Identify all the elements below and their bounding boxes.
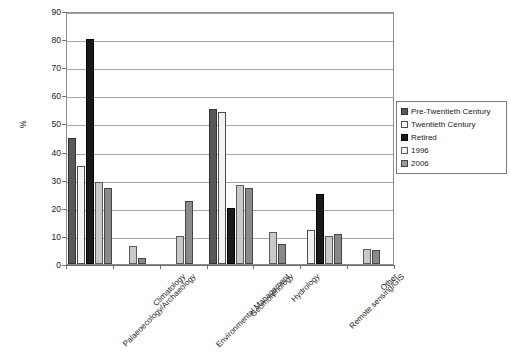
y-axis-tick-label: 90 [52, 7, 61, 17]
bars-layer [67, 13, 393, 264]
bar-group [114, 13, 161, 264]
bar [218, 112, 226, 264]
bar [278, 244, 286, 264]
legend-item-label: Twentieth Century [411, 120, 475, 129]
bar [138, 258, 146, 264]
y-axis-title: % [18, 120, 28, 128]
legend-swatch-icon [401, 108, 408, 115]
legend-item: Retired [401, 132, 503, 143]
bar-group [161, 13, 208, 264]
bar-group [67, 13, 114, 264]
plot-area [66, 12, 394, 265]
bar [372, 250, 380, 264]
bar [227, 208, 235, 264]
bar [86, 39, 94, 264]
bar [363, 249, 371, 264]
bar-group [208, 13, 255, 264]
y-axis-tick-label: 60 [52, 91, 61, 101]
legend-swatch-icon [401, 134, 408, 141]
legend-swatch-icon [401, 147, 408, 154]
y-axis-tick-label: 70 [52, 63, 61, 73]
x-axis-label: Remote sensing/GIS [348, 272, 407, 331]
bar [95, 182, 103, 264]
bar [236, 185, 244, 264]
legend-item: 1996 [401, 145, 503, 156]
x-axis-line [66, 265, 394, 266]
bar [129, 246, 137, 264]
legend-item-label: Retired [411, 133, 437, 142]
y-axis-tick-label: 50 [52, 119, 61, 129]
legend-item-label: 1996 [411, 146, 429, 155]
bar [245, 188, 253, 264]
y-axis-tick-label: 0 [56, 260, 61, 270]
bar [307, 230, 315, 264]
bar [269, 232, 277, 264]
legend-swatch-icon [401, 121, 408, 128]
y-axis-tick-label: 80 [52, 35, 61, 45]
x-axis-label: Palaeoecology/Archaeology [121, 272, 198, 349]
legend-item-label: 2006 [411, 159, 429, 168]
x-axis-tick-mark [160, 265, 161, 269]
x-axis-tick-mark [300, 265, 301, 269]
bar [325, 236, 333, 264]
x-axis-tick-mark [207, 265, 208, 269]
bar-group [348, 13, 395, 264]
x-axis-tick-mark [66, 265, 67, 269]
y-axis-tick-label: 40 [52, 148, 61, 158]
x-axis-tick-mark [253, 265, 254, 269]
bar [176, 236, 184, 264]
y-axis-tick-label: 10 [52, 232, 61, 242]
y-axis: 0102030405060708090 [0, 0, 66, 265]
legend-item: Pre-Twentieth Century [401, 106, 503, 117]
bar [334, 234, 342, 264]
x-axis-tick-mark [113, 265, 114, 269]
y-axis-tick-label: 20 [52, 204, 61, 214]
legend-item: 2006 [401, 158, 503, 169]
bar [209, 109, 217, 264]
legend-item: Twentieth Century [401, 119, 503, 130]
bar [68, 138, 76, 265]
bar [185, 201, 193, 264]
bar-group [301, 13, 348, 264]
bar [77, 166, 85, 264]
bar [316, 194, 324, 264]
bar-group [254, 13, 301, 264]
legend-item-label: Pre-Twentieth Century [411, 107, 491, 116]
chart-legend: Pre-Twentieth CenturyTwentieth CenturyRe… [396, 101, 507, 174]
bar [104, 188, 112, 264]
x-axis-tick-mark [394, 265, 395, 269]
y-axis-tick-label: 30 [52, 176, 61, 186]
bar-chart: 0102030405060708090 % Palaeoecology/Arch… [0, 0, 511, 363]
x-axis-tick-mark [347, 265, 348, 269]
x-axis-label: Geomorphology [249, 272, 296, 319]
legend-swatch-icon [401, 160, 408, 167]
